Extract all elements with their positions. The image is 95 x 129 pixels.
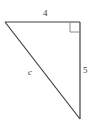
side-label-right: 5 (83, 66, 88, 75)
triangle-side-hypotenuse (5, 22, 80, 119)
triangle-drawing (0, 0, 95, 129)
right-triangle-figure: 4 5 c (0, 0, 95, 129)
right-angle-marker-icon (70, 22, 80, 32)
side-label-hypotenuse: c (28, 68, 32, 77)
side-label-top: 4 (43, 9, 48, 18)
